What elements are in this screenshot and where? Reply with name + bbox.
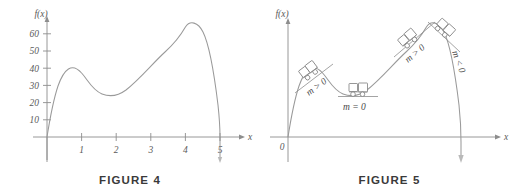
x-tick-label-1: 1	[79, 145, 84, 155]
y-tick-label-10: 10	[30, 115, 40, 125]
x-axis-label: x	[503, 132, 509, 142]
slope-label-zero: m = 0	[343, 102, 366, 112]
x-tick-label-4: 4	[183, 145, 188, 155]
y-tick-label-20: 20	[30, 98, 40, 108]
x-tick-label-3: 3	[147, 145, 153, 155]
tangent-group-slope-negative: m < 0	[428, 18, 467, 75]
figure-4-caption: FIGURE 4	[0, 174, 260, 186]
x-tick-label-2: 2	[114, 145, 119, 155]
figure-5: f(x) x 0 m > 0	[260, 0, 519, 194]
function-curve	[47, 23, 220, 137]
x-axis-arrowhead	[239, 135, 245, 140]
figure-4: 10 20 30 40 50 60 1 2 3 4 5 f(x) x	[0, 0, 260, 194]
y-axis-label: f(x)	[34, 9, 47, 20]
curve-drop-arrowhead	[218, 157, 222, 163]
origin-label: 0	[280, 142, 285, 152]
y-tick-label-60: 60	[30, 29, 40, 39]
y-tick-label-40: 40	[30, 64, 40, 74]
y-tick-label-50: 50	[30, 46, 40, 56]
curve-drop-arrowhead	[458, 155, 463, 163]
figure-5-caption: FIGURE 5	[260, 174, 519, 186]
x-axis-label: x	[247, 132, 253, 142]
y-axis-label: f(x)	[275, 9, 288, 20]
cart-icon-4	[433, 18, 455, 40]
figure-4-plot: 10 20 30 40 50 60 1 2 3 4 5 f(x) x	[0, 0, 260, 170]
x-axis-arrowhead	[495, 135, 501, 140]
tangent-group-slope-zero: m = 0	[338, 83, 378, 112]
y-tick-label-30: 30	[29, 81, 40, 91]
figure-pair-page: 10 20 30 40 50 60 1 2 3 4 5 f(x) x	[0, 0, 519, 194]
cart-icon-1	[298, 60, 320, 81]
figure-5-plot: f(x) x 0 m > 0	[260, 0, 519, 170]
